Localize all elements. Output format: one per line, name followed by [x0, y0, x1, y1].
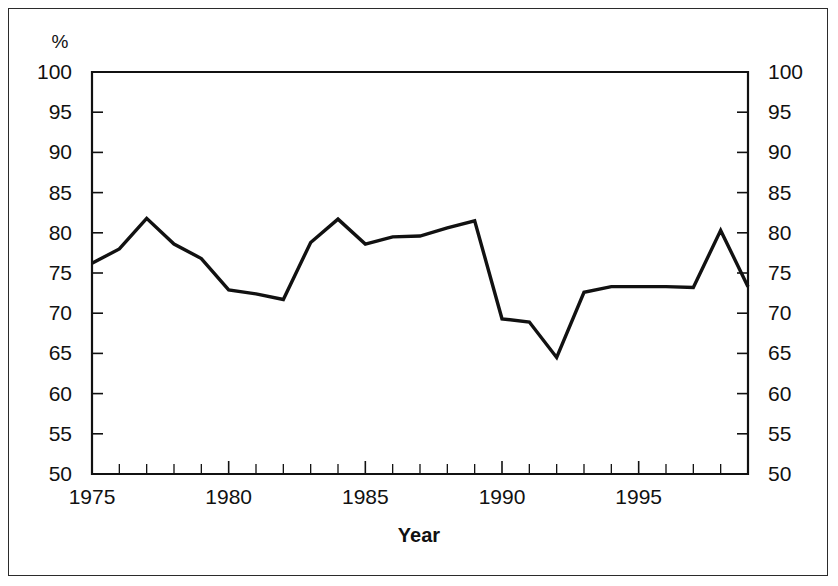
x-axis-tick-label: 1980	[205, 485, 252, 508]
y-axis-left-labels: 50556065707580859095100	[37, 60, 72, 485]
y-axis-tick-label-right: 75	[768, 261, 791, 284]
y-axis-tick-label-left: 75	[49, 261, 72, 284]
y-axis-tick-label-left: 80	[49, 221, 72, 244]
x-axis-labels: 19751980198519901995	[69, 485, 662, 508]
x-axis-tick-label: 1975	[69, 485, 116, 508]
y-axis-tick-label-right: 50	[768, 462, 791, 485]
y-axis-tick-label-right: 70	[768, 301, 791, 324]
y-axis-tick-label-right: 95	[768, 100, 791, 123]
data-series-line	[92, 218, 748, 357]
x-axis-title: Year	[398, 524, 440, 546]
y-axis-tick-label-left: 90	[49, 140, 72, 163]
x-axis-tick-label: 1985	[342, 485, 389, 508]
axis-frame	[92, 72, 748, 474]
y-axis-tick-label-right: 85	[768, 181, 791, 204]
y-axis-tick-label-right: 100	[768, 60, 803, 83]
y-axis-tick-label-right: 90	[768, 140, 791, 163]
y-axis-tick-label-left: 95	[49, 100, 72, 123]
x-axis-ticks	[92, 461, 748, 474]
y-axis-tick-label-left: 60	[49, 382, 72, 405]
y-axis-tick-label-left: 50	[49, 462, 72, 485]
x-axis-tick-label: 1990	[479, 485, 526, 508]
x-axis-tick-label: 1995	[615, 485, 662, 508]
y-axis-tick-label-left: 65	[49, 341, 72, 364]
chart-figure: 50556065707580859095100 5055606570758085…	[0, 0, 838, 586]
y-axis-tick-label-right: 65	[768, 341, 791, 364]
y-axis-tick-label-right: 55	[768, 422, 791, 445]
y-axis-tick-label-right: 60	[768, 382, 791, 405]
y-axis-unit-label: %	[52, 31, 69, 52]
y-axis-tick-label-left: 70	[49, 301, 72, 324]
y-axis-tick-label-left: 55	[49, 422, 72, 445]
plot-area: 50556065707580859095100 5055606570758085…	[0, 0, 838, 586]
y-axis-tick-label-left: 100	[37, 60, 72, 83]
line-chart: 50556065707580859095100 5055606570758085…	[0, 0, 838, 586]
y-axis-left-ticks	[92, 72, 103, 474]
y-axis-tick-label-left: 85	[49, 181, 72, 204]
y-axis-right-labels: 50556065707580859095100	[768, 60, 803, 485]
y-axis-tick-label-right: 80	[768, 221, 791, 244]
